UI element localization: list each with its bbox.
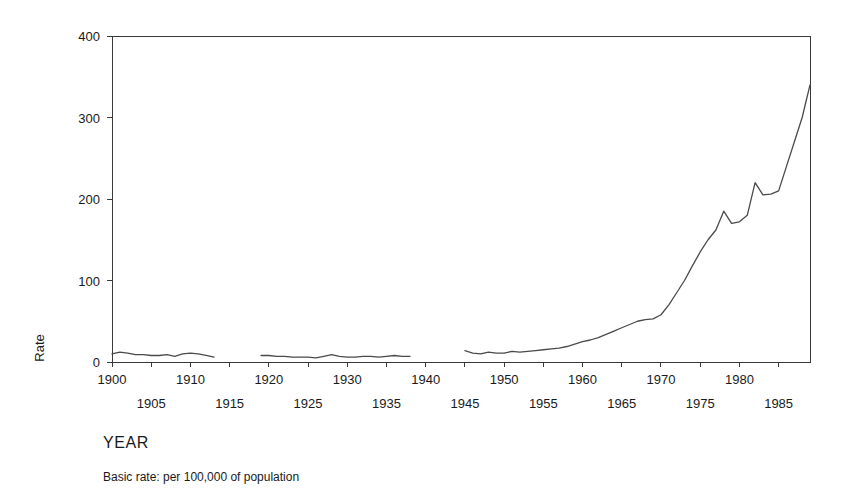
x-tick-label: 1910: [176, 372, 205, 387]
y-tick-label: 200: [78, 192, 100, 207]
x-tick-label: 1925: [294, 396, 323, 411]
chart-background: [0, 0, 847, 495]
x-tick-label: 1920: [254, 372, 283, 387]
x-axis-title: YEAR: [103, 434, 149, 451]
x-tick-label: 1940: [411, 372, 440, 387]
y-tick-label: 0: [93, 355, 100, 370]
x-tick-label: 1980: [725, 372, 754, 387]
rate-line-chart: 0100200300400 19001910192019301940195019…: [0, 0, 847, 495]
x-tick-label: 1965: [607, 396, 636, 411]
x-tick-label: 1915: [215, 396, 244, 411]
x-tick-label: 1945: [450, 396, 479, 411]
x-tick-label: 1960: [568, 372, 597, 387]
y-tick-label: 400: [78, 29, 100, 44]
x-tick-label: 1900: [98, 372, 127, 387]
x-tick-label: 1935: [372, 396, 401, 411]
x-tick-label: 1970: [647, 372, 676, 387]
y-tick-label: 300: [78, 111, 100, 126]
x-tick-label: 1955: [529, 396, 558, 411]
y-axis-title: Rate: [32, 334, 47, 361]
chart-caption: Basic rate: per 100,000 of population: [103, 470, 299, 484]
x-tick-label: 1950: [490, 372, 519, 387]
y-tick-label: 100: [78, 274, 100, 289]
x-tick-label: 1975: [686, 396, 715, 411]
x-tick-label: 1930: [333, 372, 362, 387]
chart-figure: 0100200300400 19001910192019301940195019…: [0, 0, 847, 495]
x-tick-label: 1985: [764, 396, 793, 411]
x-tick-label: 1905: [137, 396, 166, 411]
